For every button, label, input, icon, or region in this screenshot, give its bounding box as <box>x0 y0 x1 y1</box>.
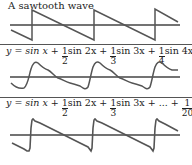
panel-fourier-4-terms: y = sin x + 12sin 2x + 13sin 3x + 14sin … <box>0 45 192 97</box>
panel-fourier-20-terms: y = sin x + 12sin 2x + 13sin 3x + ... + … <box>0 98 192 165</box>
fourier-4-plot <box>0 45 192 97</box>
fourier-wave-4-terms <box>11 62 178 89</box>
panel-sawtooth: A sawtooth wave <box>0 0 192 44</box>
sawtooth-wave-plot <box>0 0 192 44</box>
fourier-20-plot <box>0 98 192 165</box>
